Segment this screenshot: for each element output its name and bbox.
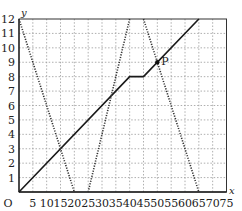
point-p-marker <box>155 60 159 64</box>
axis-labels: Oyx <box>3 7 235 210</box>
x-axis-label: x <box>229 185 235 196</box>
origin-label: O <box>3 197 12 210</box>
y-tick-label: 4 <box>8 128 15 141</box>
y-tick-label: 9 <box>8 56 15 69</box>
y-tick-label: 1 <box>8 172 15 185</box>
y-tick-label: 6 <box>8 100 15 113</box>
x-tick-label: 45 <box>137 197 151 210</box>
y-tick-label: 11 <box>1 27 15 40</box>
x-tick-label: 30 <box>95 197 109 210</box>
dotted-line-2 <box>88 19 130 192</box>
y-tick-label: 8 <box>8 71 15 84</box>
x-tick-label: 40 <box>123 197 137 210</box>
x-tick-label: 35 <box>109 197 123 210</box>
x-tick-label: 55 <box>164 197 178 210</box>
chart: 5101520253035404550556065707512345678910… <box>0 0 242 211</box>
y-tick-label: 3 <box>8 143 15 156</box>
point-p-label: P <box>161 55 169 68</box>
x-tick-label: 15 <box>54 197 68 210</box>
x-tick-label: 20 <box>67 197 81 210</box>
y-tick-label: 7 <box>8 85 15 98</box>
x-tick-label: 75 <box>220 197 234 210</box>
x-tick-label: 60 <box>178 197 192 210</box>
y-tick-label: 12 <box>1 13 15 26</box>
x-tick-label: 50 <box>150 197 164 210</box>
y-tick-label: 10 <box>1 42 15 55</box>
x-tick-label: 10 <box>40 197 54 210</box>
x-tick-label: 70 <box>206 197 220 210</box>
x-tick-label: 5 <box>29 197 36 210</box>
y-axis-label: y <box>20 7 27 18</box>
y-tick-label: 5 <box>8 114 15 127</box>
y-tick-label: 2 <box>8 157 15 170</box>
x-tick-label: 25 <box>81 197 95 210</box>
x-tick-label: 65 <box>192 197 206 210</box>
